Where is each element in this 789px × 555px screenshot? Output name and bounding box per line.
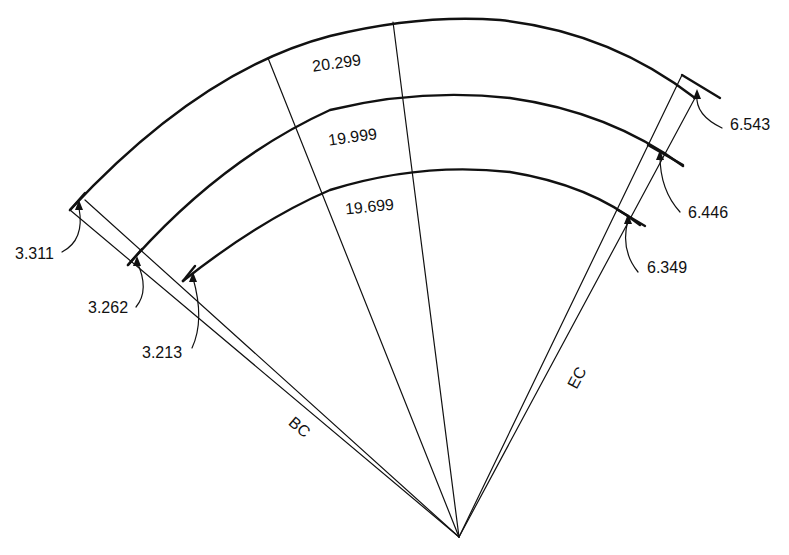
ec-offset-outer: 6.543 xyxy=(730,116,770,133)
ec-radial-line-inner xyxy=(459,98,695,537)
bc-offset-outer: 3.311 xyxy=(15,245,54,262)
bc-offset-middle: 3.262 xyxy=(88,299,128,316)
bc-radial-line-outer xyxy=(70,210,459,537)
ec-tick-middle xyxy=(648,145,683,165)
ec-leader-middle xyxy=(660,156,680,212)
middle-arc-length: 19.999 xyxy=(327,125,378,149)
arrowhead-icon xyxy=(693,89,701,99)
ec-offset-middle: 6.446 xyxy=(688,204,728,221)
outer-arc xyxy=(70,19,695,210)
diagram-svg: 20.299 19.999 19.699 3.311 3.262 3.213 6… xyxy=(0,0,789,555)
bc-offset-inner: 3.213 xyxy=(142,344,182,361)
inner-arc xyxy=(183,169,640,281)
radial-line-2 xyxy=(393,22,459,537)
bc-label: BC xyxy=(286,413,314,440)
inner-arc-length: 19.699 xyxy=(344,196,395,218)
bc-leader-outer xyxy=(62,208,80,252)
curve-layout-diagram: 20.299 19.999 19.699 3.311 3.262 3.213 6… xyxy=(0,0,789,555)
ec-offset-inner: 6.349 xyxy=(647,259,687,276)
ec-label: EC xyxy=(564,364,589,392)
ec-leader-outer xyxy=(697,95,722,128)
ec-tick-outer xyxy=(682,75,720,98)
ec-leader-inner xyxy=(626,220,638,272)
bc-leader-middle xyxy=(136,262,143,307)
outer-arc-length: 20.299 xyxy=(311,51,362,75)
